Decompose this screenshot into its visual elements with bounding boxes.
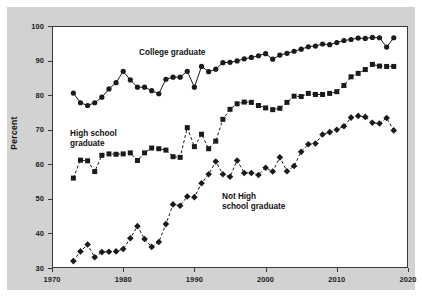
data-point (128, 150, 133, 155)
data-point (191, 194, 198, 201)
x-tick-mark (266, 268, 267, 272)
data-point (270, 107, 275, 112)
y-tick-label: 60 (22, 160, 44, 169)
data-point (349, 74, 354, 79)
data-point (178, 75, 183, 80)
y-tick-label: 90 (22, 56, 44, 65)
x-tick-label: 1990 (174, 275, 214, 284)
data-point (163, 148, 168, 153)
x-tick-mark (123, 268, 124, 272)
data-point (377, 35, 382, 40)
data-point (127, 235, 134, 242)
data-point (77, 248, 84, 255)
y-tick-label: 30 (22, 264, 44, 273)
data-point (192, 144, 197, 149)
data-point (292, 94, 297, 99)
data-point (376, 120, 383, 127)
data-point (327, 42, 332, 47)
data-point (306, 91, 311, 96)
data-point (220, 60, 225, 65)
data-point (363, 36, 368, 41)
data-point (256, 103, 261, 108)
data-point (256, 53, 261, 58)
data-point (234, 157, 241, 164)
data-point (78, 100, 83, 105)
data-point (299, 94, 304, 99)
data-point (206, 69, 211, 74)
data-point (356, 71, 361, 76)
y-tick-label: 100 (22, 22, 44, 31)
data-point (106, 86, 111, 91)
data-point (199, 132, 204, 137)
x-tick-mark (408, 268, 409, 272)
data-point (242, 56, 247, 61)
data-point (142, 85, 147, 90)
data-point (121, 69, 126, 74)
data-point (269, 168, 276, 175)
x-tick-mark (337, 268, 338, 272)
data-point (249, 100, 254, 105)
data-point (113, 80, 118, 85)
data-point (270, 57, 275, 62)
data-point (170, 201, 177, 208)
data-point (370, 62, 375, 67)
data-point (228, 107, 233, 112)
x-tick-label: 2010 (317, 275, 357, 284)
data-point (156, 146, 161, 151)
data-point (142, 150, 147, 155)
data-point (134, 223, 141, 230)
data-point (185, 69, 190, 74)
data-point (205, 171, 212, 178)
data-point (227, 60, 232, 65)
y-tick-label: 40 (22, 229, 44, 238)
series-line (73, 64, 393, 178)
data-point (391, 35, 396, 40)
data-point (192, 85, 197, 90)
data-point (220, 171, 227, 178)
data-point (390, 127, 397, 134)
data-point (84, 241, 91, 248)
data-point (212, 158, 219, 165)
data-point (213, 67, 218, 72)
data-point (334, 126, 341, 133)
data-point (299, 47, 304, 52)
data-point (326, 129, 333, 136)
series-not-high-school-graduate (70, 113, 397, 265)
data-point (263, 51, 268, 56)
annotation-not-high-school-graduate: Not High school graduate (222, 192, 285, 212)
data-point (113, 248, 120, 255)
data-point (235, 101, 240, 106)
data-point (348, 37, 353, 42)
data-point (313, 92, 318, 97)
data-point (106, 151, 111, 156)
data-point (284, 51, 289, 56)
y-tick-label: 50 (22, 194, 44, 203)
data-point (277, 154, 284, 161)
data-point (78, 158, 83, 163)
data-point (334, 40, 339, 45)
data-point (85, 158, 90, 163)
data-point (312, 140, 319, 147)
data-point (384, 64, 389, 69)
data-point (248, 170, 255, 177)
data-point (99, 95, 104, 100)
data-point (384, 44, 389, 49)
data-point (213, 139, 218, 144)
data-point (227, 173, 234, 180)
data-point (178, 155, 183, 160)
data-point (355, 113, 362, 120)
data-point (391, 64, 396, 69)
x-tick-label: 2020 (388, 275, 422, 284)
data-point (99, 153, 104, 158)
x-tick-label: 2000 (246, 275, 286, 284)
data-point (171, 154, 176, 159)
y-axis-label: Percent (9, 103, 19, 163)
data-point (334, 89, 339, 94)
data-point (91, 254, 98, 261)
data-point (262, 164, 269, 171)
data-point (220, 117, 225, 122)
x-tick-label: 1970 (32, 275, 72, 284)
data-point (71, 176, 76, 181)
data-point (341, 83, 346, 88)
data-point (320, 92, 325, 97)
